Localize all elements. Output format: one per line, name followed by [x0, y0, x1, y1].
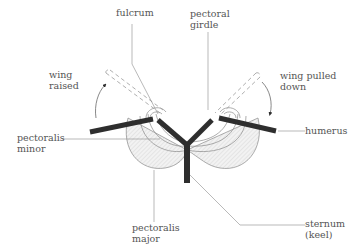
wing-pulled-down-dashed: [215, 73, 260, 116]
label-wing-pulled-down-line2: down: [280, 82, 306, 93]
label-pectoralis-minor-line2: minor: [17, 144, 45, 155]
pectoralis-major-muscle: [126, 118, 259, 168]
label-sternum-line1: sternum: [305, 219, 345, 230]
label-wing-pulled-down-line1: wing pulled: [280, 71, 336, 82]
label-pectoralis-major-line1: pectoralis: [132, 223, 180, 234]
label-pectoralis-minor-line1: pectoralis: [17, 133, 65, 144]
leader-lines: [62, 24, 305, 225]
wing-pulled-down-arrow: [262, 82, 271, 114]
label-fulcrum: fulcrum: [116, 8, 154, 19]
wing-raised-arrow: [95, 85, 105, 118]
flight-muscle-diagram: [0, 0, 357, 247]
label-wing-raised-line1: wing: [49, 70, 72, 81]
label-pectoral-girdle-line2: girdle: [190, 20, 218, 31]
label-pectoralis-major-line2: major: [132, 234, 160, 245]
pectoralis-minor-muscle: [140, 108, 246, 152]
label-sternum-line2: (keel): [305, 230, 332, 241]
label-wing-raised-line2: raised: [49, 81, 79, 92]
label-humerus: humerus: [305, 126, 347, 137]
label-pectoral-girdle-line1: pectoral: [190, 9, 230, 20]
